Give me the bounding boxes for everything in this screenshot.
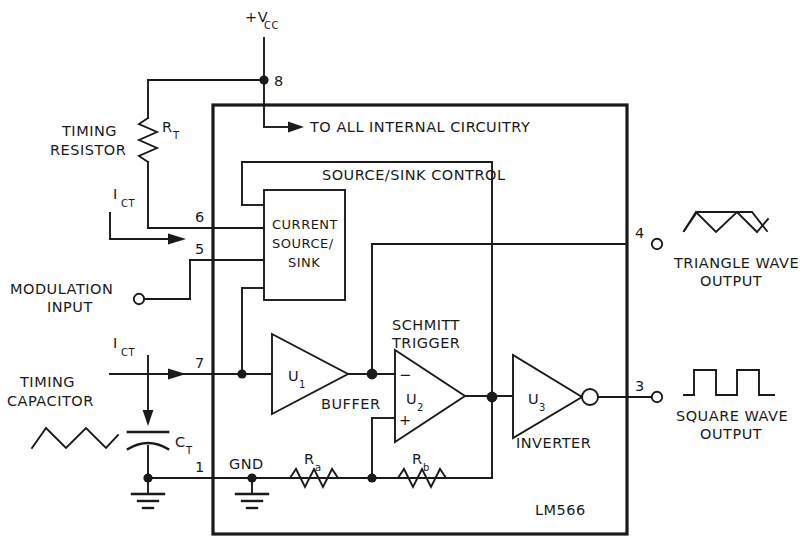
u3-label: U xyxy=(528,391,539,407)
timing-capacitor-wave-icon xyxy=(32,428,118,448)
square-wave-icon xyxy=(684,370,774,395)
pin3-output-terminal[interactable] xyxy=(652,392,662,402)
internal-circuitry-arrowhead xyxy=(288,122,304,133)
u1-label-sub: 1 xyxy=(299,379,306,390)
ict-top-arrowhead xyxy=(168,234,186,245)
internal-circuitry-label: TO ALL INTERNAL CIRCUITRY xyxy=(309,119,530,135)
ict-bottom-down-arrowhead xyxy=(143,410,154,426)
pin7-node-dot xyxy=(237,369,246,378)
timing-capacitor-label-line2: CAPACITOR xyxy=(7,393,94,409)
ra-label: R xyxy=(304,451,315,467)
u2-output-node-dot xyxy=(487,392,498,403)
pin-4-label: 4 xyxy=(635,225,645,241)
modulation-input-terminal[interactable] xyxy=(134,294,144,304)
pin8-junction-dot xyxy=(259,75,268,84)
u2-label-sub: 2 xyxy=(417,402,424,413)
rb-label: R xyxy=(412,451,423,467)
ict-bottom-label: I xyxy=(113,335,118,351)
pin-6-label: 6 xyxy=(195,209,205,225)
schematic-canvas: +V CC 8 TO ALL INTERNAL CIRCUITRY TIMING… xyxy=(0,0,805,558)
ict-top-label: I xyxy=(113,186,118,202)
u3-inverter-bubble xyxy=(582,389,598,405)
schmitt-trigger-label-line2: TRIGGER xyxy=(391,335,460,351)
rt-label-sub: T xyxy=(172,130,180,141)
u2-label: U xyxy=(406,391,417,407)
triangle-wave-icon xyxy=(684,212,767,231)
pin4-output-terminal[interactable] xyxy=(652,239,662,249)
chip-name-label: LM566 xyxy=(535,502,586,518)
ct-label-sub: T xyxy=(185,445,193,456)
current-source-label-line2: SOURCE/ xyxy=(272,236,334,251)
vcc-label-sub: CC xyxy=(264,20,279,31)
pin-1-label: 1 xyxy=(195,459,205,475)
u3-label-sub: 3 xyxy=(539,402,546,413)
pin-8-label: 8 xyxy=(274,73,284,89)
schmitt-trigger-label-line1: SCHMITT xyxy=(392,317,460,333)
triangle-output-label-line1: TRIANGLE WAVE xyxy=(673,255,799,271)
current-source-label-line3: SINK xyxy=(288,255,320,270)
current-source-label-line1: CURRENT xyxy=(272,217,338,232)
lm566-block-diagram: +V CC 8 TO ALL INTERNAL CIRCUITRY TIMING… xyxy=(0,0,805,558)
ct-label: C xyxy=(175,434,186,450)
square-output-label-line1: SQUARE WAVE xyxy=(676,408,788,424)
timing-capacitor-label-line1: TIMING xyxy=(19,374,75,390)
modulation-input-label-line1: MODULATION xyxy=(10,281,113,297)
u2-minus-input-label: − xyxy=(399,367,412,383)
rb-label-sub: b xyxy=(423,462,430,473)
pin-5-label: 5 xyxy=(195,241,205,257)
source-sink-control-label: SOURCE/SINK CONTROL xyxy=(322,167,506,183)
ict-bottom-label-sub: CT xyxy=(121,347,135,358)
pin-7-label: 7 xyxy=(195,355,205,371)
ra-label-sub: a xyxy=(315,462,322,473)
triangle-output-label-line2: OUTPUT xyxy=(700,273,762,289)
timing-resistor-label-line1: TIMING xyxy=(61,123,117,139)
square-output-label-line2: OUTPUT xyxy=(700,426,762,442)
timing-resistor-label-line2: RESISTOR xyxy=(50,142,126,158)
pin-3-label: 3 xyxy=(635,378,645,394)
ict-top-label-sub: CT xyxy=(121,198,135,209)
u2-plus-input-label: + xyxy=(399,412,412,428)
inverter-label: INVERTER xyxy=(516,435,591,451)
buffer-label: BUFFER xyxy=(321,396,380,412)
gnd-label: GND xyxy=(229,456,264,472)
rt-resistor-zigzag xyxy=(139,118,157,162)
modulation-input-label-line2: INPUT xyxy=(47,299,93,315)
rt-label: R xyxy=(162,119,173,135)
u3-inverter-triangle xyxy=(513,355,582,438)
u1-label: U xyxy=(288,368,299,384)
